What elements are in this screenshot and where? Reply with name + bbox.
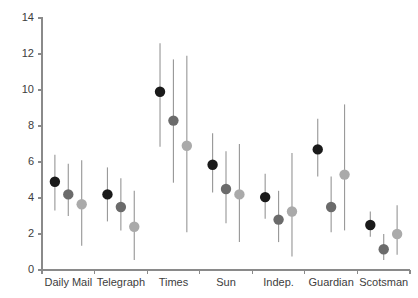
data-point-marker [392, 229, 402, 239]
data-point-marker [221, 184, 231, 194]
scatter-plot-with-error-bars: 02468101214 Daily MailTelegraphTimesSunI… [0, 0, 418, 298]
data-point-marker [234, 189, 244, 199]
data-point-marker [287, 206, 297, 216]
x-tick-label-telegraph: Telegraph [97, 276, 145, 288]
data-point-marker [260, 192, 270, 202]
x-tick-label-sun: Sun [216, 276, 236, 288]
data-point-marker [207, 160, 217, 170]
y-tick-label: 12 [22, 47, 34, 59]
data-point-marker [273, 214, 283, 224]
y-tick-label: 2 [28, 227, 34, 239]
data-point-marker [129, 222, 139, 232]
data-point-marker [379, 244, 389, 254]
data-point-marker [182, 141, 192, 151]
y-tick-label: 14 [22, 11, 34, 23]
y-tick-label: 10 [22, 83, 34, 95]
x-axis: Daily MailTelegraphTimesSunIndep.Guardia… [42, 270, 410, 288]
data-point-marker [116, 202, 126, 212]
x-tick-label-daily-mail: Daily Mail [44, 276, 92, 288]
data-point-marker [313, 144, 323, 154]
y-axis: 02468101214 [22, 11, 42, 275]
x-tick-label-guardian: Guardian [309, 276, 354, 288]
data-point-marker [63, 189, 73, 199]
data-point-marker [155, 87, 165, 97]
y-tick-label: 4 [28, 191, 34, 203]
y-tick-label: 0 [28, 263, 34, 275]
x-tick-label-scotsman: Scotsman [359, 276, 408, 288]
data-point-marker [339, 169, 349, 179]
y-tick-label: 6 [28, 155, 34, 167]
y-tick-label: 8 [28, 119, 34, 131]
x-tick-label-indep: Indep. [263, 276, 294, 288]
data-point-marker [50, 177, 60, 187]
data-point-marker [76, 199, 86, 209]
data-point-marker [168, 115, 178, 125]
data-points-layer [50, 43, 403, 260]
chart-container: 02468101214 Daily MailTelegraphTimesSunI… [0, 0, 418, 298]
data-point-marker [102, 189, 112, 199]
data-point-marker [365, 220, 375, 230]
data-point-marker [326, 202, 336, 212]
x-tick-label-times: Times [159, 276, 189, 288]
